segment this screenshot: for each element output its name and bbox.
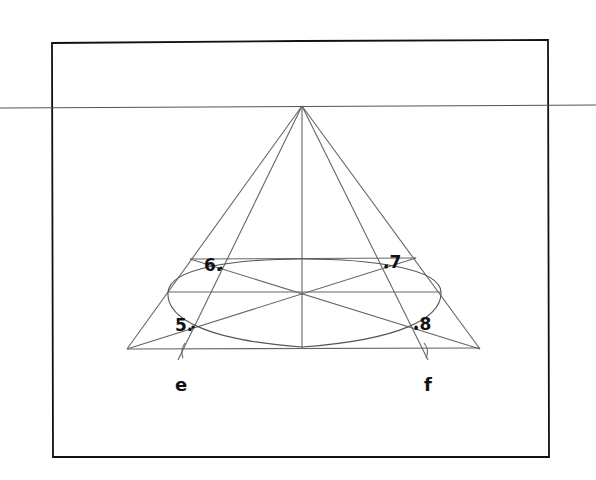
perspective-diagram: 5. 6. .7 .8 e f [0,0,596,480]
point-label-5: 5. [175,315,193,335]
horizontal-lines [127,258,480,349]
horizon-line [0,105,596,108]
point-label-6: 6. [204,255,222,275]
picture-frame [52,40,549,457]
diagonal-lines [127,258,480,349]
tick-label-e: e [175,374,187,395]
tick-e [182,343,185,358]
point-label-8: .8 [413,314,431,334]
point-label-7: .7 [383,252,401,272]
tick-label-f: f [424,374,432,395]
